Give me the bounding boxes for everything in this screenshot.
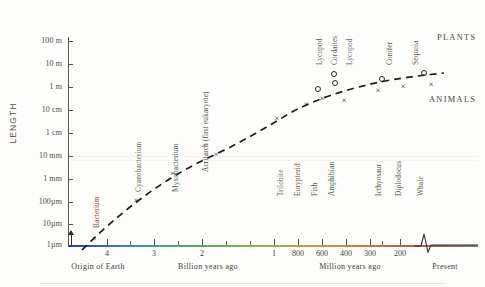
x-tick-mark [130, 241, 131, 245]
y-axis-line [68, 37, 69, 246]
y-tick-mark [68, 156, 73, 157]
specimen-label: Trilobite [276, 169, 285, 196]
y-tick-label: 10 mm [2, 151, 62, 160]
data-point-x [303, 101, 310, 108]
y-tick-label: 100µm [2, 197, 62, 206]
data-point-o [315, 86, 322, 93]
specimen-label: Amphibian [327, 162, 336, 196]
x-tick-label: 4 [87, 249, 127, 258]
figure-root: LENGTH 100 m10 m1 m10 cm1 cm10 mm1 mm100… [0, 0, 485, 287]
x-tick-label: 200 [380, 249, 420, 258]
x-tick-mark [274, 239, 275, 245]
y-tick-label: 1µm [2, 240, 62, 249]
data-point-x [319, 95, 326, 102]
y-tick-label: 100 m [2, 36, 62, 45]
plant-label: Conifer [385, 42, 394, 65]
x-tick-mark [370, 239, 371, 245]
specimen-label: Acritarch (first eukaryote) [201, 91, 210, 172]
specimen-label: Whale [416, 176, 425, 196]
specimen-label: Cyanobacterium [134, 142, 143, 192]
group-label-plants: PLANTS [437, 33, 476, 42]
data-point-x [400, 83, 407, 90]
data-point-x [213, 151, 220, 158]
specimen-label: Bacterium [92, 196, 101, 228]
present-label: Present [375, 262, 485, 271]
specimen-label: Eurypterid [293, 163, 302, 196]
x-axis-line [68, 245, 478, 247]
plant-label: Sequoia [411, 40, 420, 65]
y-tick-label: 1 mm [2, 174, 62, 183]
y-tick-mark [68, 87, 73, 88]
x-tick-mark [382, 241, 383, 245]
plant-label: Lycopod [315, 38, 324, 65]
data-point-x [133, 197, 140, 204]
x-tick-mark [178, 241, 179, 245]
y-axis-title: LENGTH [8, 88, 18, 158]
y-tick-label: 10µm [2, 219, 62, 228]
specimen-label: Icthyosaur [374, 164, 383, 196]
data-point-x [91, 235, 98, 242]
x-tick-label: 2 [182, 249, 222, 258]
specimen-label: Myxobacterium [171, 143, 180, 192]
data-point-x [274, 115, 281, 122]
x-tick-mark [298, 239, 299, 245]
origin-of-earth-arrow-head [68, 230, 74, 235]
y-tick-mark [68, 41, 73, 42]
x-tick-mark [400, 239, 401, 245]
data-point-x [428, 81, 435, 88]
plant-label: Cordaites [330, 36, 339, 65]
data-point-o [332, 80, 339, 87]
axis-break-icon [414, 234, 478, 252]
guide-band-upper [68, 156, 478, 157]
y-tick-mark [68, 179, 73, 180]
y-tick-label: 10 m [2, 59, 62, 68]
x-tick-label: 3 [134, 249, 174, 258]
y-tick-label: 1 cm [2, 128, 62, 137]
y-tick-mark [68, 110, 73, 111]
x-tick-mark [202, 239, 203, 245]
y-tick-mark [68, 64, 73, 65]
y-tick-mark [68, 133, 73, 134]
caption-rule [40, 283, 445, 284]
specimen-label: Diplodocus [394, 161, 403, 196]
y-tick-mark [68, 202, 73, 203]
x-tick-mark [322, 239, 323, 245]
data-point-o [331, 71, 338, 78]
y-tick-mark [68, 224, 73, 225]
x-tick-mark [346, 239, 347, 245]
guide-band-lower [68, 160, 478, 161]
x-tick-mark [154, 239, 155, 245]
plant-label: Lycopod [345, 38, 354, 65]
data-point-o [421, 70, 428, 77]
x-tick-mark [107, 239, 108, 245]
data-point-o [379, 76, 386, 83]
data-point-x [341, 97, 348, 104]
y-tick-label: 10 cm [2, 105, 62, 114]
data-point-x [375, 87, 382, 94]
specimen-label: Fish [310, 183, 319, 196]
x-caption-billion: Billion years ago [138, 262, 278, 271]
y-tick-label: 1 m [2, 82, 62, 91]
x-tick-mark [226, 241, 227, 245]
group-label-animals: ANIMALS [429, 95, 476, 104]
x-tick-mark [250, 241, 251, 245]
